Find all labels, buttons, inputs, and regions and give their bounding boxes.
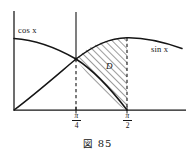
tick-label-pi-over-4-denominator: 4 xyxy=(68,122,85,130)
tick-label-pi-over-4-numerator: π xyxy=(68,112,85,120)
cos-curve-label: cos x xyxy=(18,26,37,35)
intersection-point xyxy=(75,58,78,61)
figure-caption: 図 85 xyxy=(0,136,195,150)
tick-label-pi-over-2-numerator: π xyxy=(119,112,136,120)
figure-caption-word: 図 xyxy=(83,138,94,149)
figure-caption-number: 85 xyxy=(98,138,113,149)
tick-label-pi-over-2: π 2 xyxy=(119,112,136,130)
region-d-label: D xyxy=(106,62,113,71)
tick-label-pi-over-4: π 4 xyxy=(68,112,85,130)
sin-curve-label: sin x xyxy=(151,45,168,54)
tick-label-pi-over-2-denominator: 2 xyxy=(119,122,136,130)
figure-container: cos x sin x D π 4 π 2 図 85 xyxy=(0,0,195,159)
